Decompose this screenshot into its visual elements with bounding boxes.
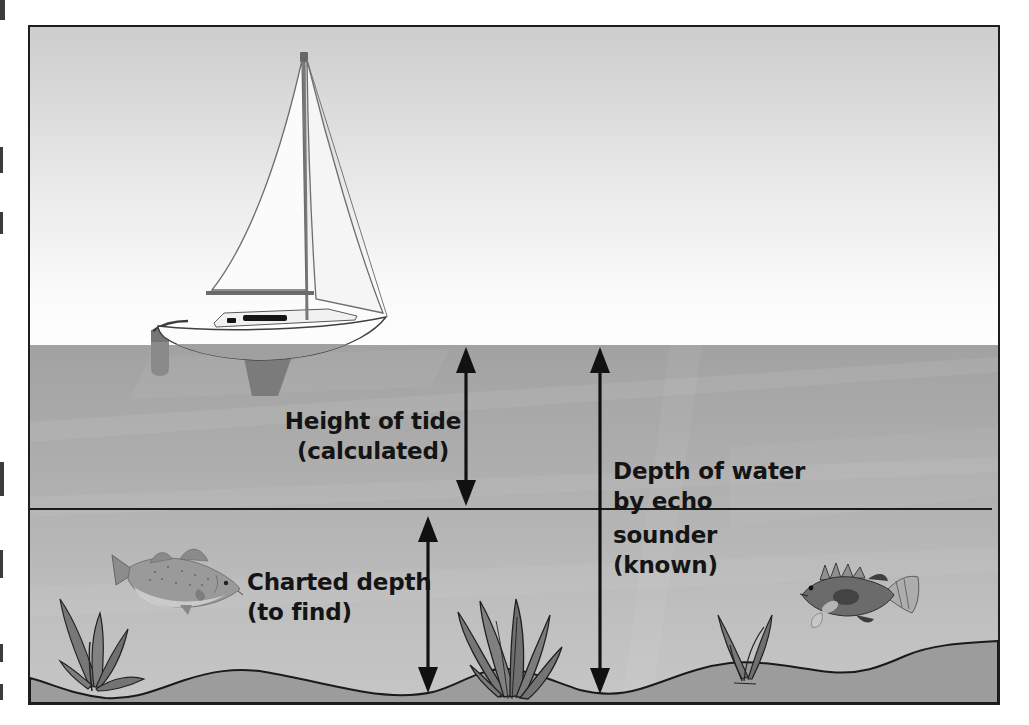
depth-of-water-line-3: sounder — [613, 520, 718, 550]
scan-artifact — [0, 684, 3, 700]
diagram-frame: Height of tide (calculated) Depth of wat… — [28, 25, 1000, 705]
scan-artifact — [0, 0, 5, 20]
scan-artifact — [0, 644, 3, 662]
cabin-window — [227, 318, 236, 323]
cabin-window — [243, 315, 287, 321]
charted-depth-line-1: Charted depth — [247, 567, 431, 597]
scan-artifact — [0, 550, 3, 578]
charted-depth-line-2: (to find) — [247, 597, 431, 627]
depth-of-water-label-lower: sounder (known) — [613, 520, 718, 580]
height-of-tide-line-2: (calculated) — [283, 436, 463, 466]
depth-of-water-line-1: Depth of water — [613, 456, 805, 486]
depth-of-water-line-2: by echo — [613, 486, 805, 516]
scan-artifact — [0, 147, 3, 173]
depth-of-water-label-upper: Depth of water by echo — [613, 456, 805, 516]
scan-artifact — [0, 462, 4, 496]
height-of-tide-label: Height of tide (calculated) — [283, 406, 463, 466]
sky — [30, 27, 998, 345]
scan-artifact — [0, 212, 3, 234]
depth-of-water-line-4: (known) — [613, 550, 718, 580]
scene-illustration — [30, 27, 998, 703]
charted-depth-label: Charted depth (to find) — [247, 567, 431, 627]
scanned-page: Height of tide (calculated) Depth of wat… — [0, 0, 1029, 725]
height-of-tide-line-1: Height of tide — [283, 406, 463, 436]
